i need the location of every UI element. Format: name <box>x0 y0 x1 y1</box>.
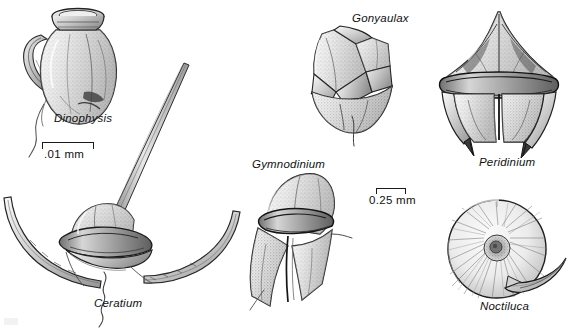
label-noctiluca: Noctiluca <box>480 300 529 312</box>
label-ceratium: Ceratium <box>94 297 142 309</box>
organism-ceratium <box>4 63 240 327</box>
scan-artifact <box>4 318 18 325</box>
scale-bar-dinophysis-label: .01 mm <box>44 148 84 160</box>
label-gonyaulax: Gonyaulax <box>352 12 409 24</box>
label-gymnodinium: Gymnodinium <box>252 158 325 170</box>
organism-gymnodinium <box>250 174 352 310</box>
organism-noctiluca <box>448 200 566 299</box>
label-dinophysis: Dinophysis <box>54 112 112 124</box>
scale-bar-lower-label: 0.25 mm <box>369 194 416 206</box>
organism-gonyaulax <box>311 26 392 146</box>
label-peridinium: Peridinium <box>479 156 535 168</box>
dinoflagellate-illustration-plate: Dinophysis Ceratium Gonyaulax Gymnodiniu… <box>0 0 570 328</box>
organism-peridinium <box>440 12 559 158</box>
organism-dinophysis <box>24 9 117 158</box>
